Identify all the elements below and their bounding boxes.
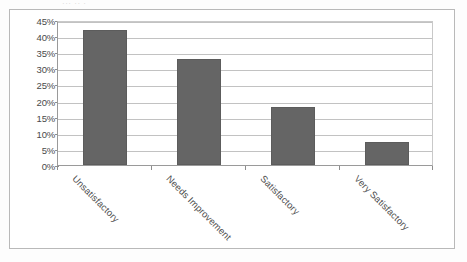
y-axis-tick-label: 30% — [11, 65, 55, 74]
gridline — [58, 22, 432, 23]
y-axis-tick-label: 10% — [11, 129, 55, 138]
y-axis-tick-label: 0% — [11, 162, 55, 171]
bar[interactable] — [271, 107, 315, 165]
y-axis-tick-label: 5% — [11, 145, 55, 154]
y-axis-tick-label: 20% — [11, 97, 55, 106]
y-axis: 45%40%35%30%25%20%15%10%5%0% — [10, 21, 55, 167]
y-axis-tick-label: 40% — [11, 33, 55, 42]
bar[interactable] — [365, 142, 409, 165]
y-axis-tick-label: 35% — [11, 49, 55, 58]
plot-area — [57, 21, 433, 166]
cut-off-title-remnant: ··· ·· · — [62, 0, 182, 4]
y-axis-tick-label: 25% — [11, 81, 55, 90]
x-axis-category-label: Satisfactory — [258, 173, 302, 217]
x-axis-category-label: Needs Improvement — [164, 173, 233, 242]
chart-frame: 45%40%35%30%25%20%15%10%5%0% Unsatisfact… — [9, 9, 455, 249]
y-axis-tick-label: 45% — [11, 17, 55, 26]
x-axis-labels: UnsatisfactoryNeeds ImprovementSatisfact… — [57, 167, 433, 249]
x-axis-category-label: Unsatisfactory — [70, 173, 121, 224]
bar[interactable] — [83, 30, 127, 165]
bar[interactable] — [177, 59, 221, 165]
x-axis-category-label: Very Satisfactory — [352, 173, 411, 232]
y-axis-tick-label: 15% — [11, 113, 55, 122]
